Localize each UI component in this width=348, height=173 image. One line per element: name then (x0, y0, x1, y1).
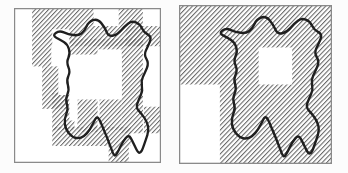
white-cell (69, 55, 121, 100)
quadtree-region-figure (0, 0, 348, 173)
hatch-cell (69, 39, 97, 55)
white-cell (179, 85, 220, 165)
white-cell (259, 47, 293, 84)
white-cell (69, 95, 77, 120)
hatch-cell (98, 39, 122, 50)
hatch-cell (122, 39, 143, 133)
left-panel-boundary-cells (14, 8, 161, 163)
hatch-cell (32, 8, 93, 26)
hatch-cell (52, 127, 131, 146)
hatch-cell (32, 26, 51, 66)
right-panel-covering-cells (179, 5, 332, 164)
